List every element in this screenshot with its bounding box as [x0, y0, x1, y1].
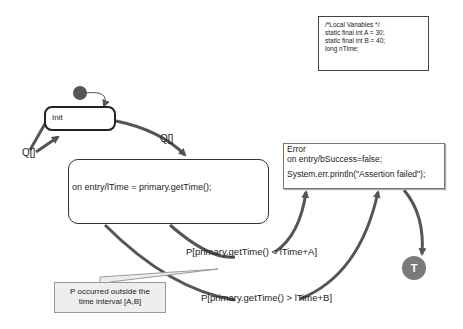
state-entry[interactable]: on entry/lTime = primary.getTime();	[68, 159, 269, 224]
note-line: time interval [A,B]	[55, 297, 165, 307]
state-init[interactable]: Init	[44, 106, 116, 131]
state-error-entry-action: on entry/bSuccess=false;	[284, 154, 444, 164]
note-line: P occurred outside the	[55, 287, 165, 297]
state-entry-label: on entry/lTime = primary.getTime();	[72, 182, 211, 193]
init-to-entry-label: Q[]	[160, 133, 173, 144]
variables-line: static final int B = 40;	[325, 37, 428, 45]
state-error-title: Error	[284, 144, 444, 154]
state-init-label: Init	[52, 112, 63, 123]
gt-guard-label: P[primary.getTime() > lTime+B]	[201, 292, 332, 303]
local-variables-box[interactable]: /*Local Variables */ static final int A …	[318, 16, 429, 71]
variables-line: long nTime;	[325, 45, 428, 53]
state-error-action: System.err.println("Assertion failed");	[284, 169, 444, 179]
lt-guard-label: P[primary.getTime() < lTime+A]	[186, 246, 317, 257]
variables-line: /*Local Variables */	[325, 21, 428, 29]
self-loop-label: Q[]	[22, 147, 35, 158]
terminal-node[interactable]: T	[402, 256, 426, 280]
initial-node[interactable]	[73, 86, 87, 100]
comment-note[interactable]: P occurred outside the time interval [A,…	[54, 282, 166, 313]
variables-line: static final int A = 30;	[325, 29, 428, 37]
state-error[interactable]: Error on entry/bSuccess=false; System.er…	[283, 143, 445, 189]
